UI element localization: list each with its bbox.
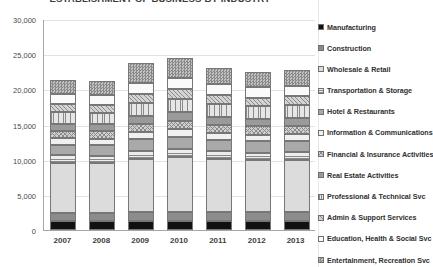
bar-segment[interactable] (89, 81, 115, 95)
bar-segment[interactable] (167, 129, 193, 136)
bar-segment[interactable] (89, 213, 115, 221)
bar-segment[interactable] (50, 112, 76, 123)
bar-segment[interactable] (245, 160, 271, 212)
bar-column-2007[interactable] (50, 80, 76, 230)
bar-segment[interactable] (245, 126, 271, 134)
bar-segment[interactable] (89, 221, 115, 230)
bar-segment[interactable] (167, 112, 193, 120)
bar-segment[interactable] (128, 83, 154, 94)
bar-segment[interactable] (245, 119, 271, 127)
legend-item-wholesale-retail[interactable]: Wholesale & Retail (318, 64, 433, 74)
bar-segment[interactable] (89, 145, 115, 155)
legend-item-professional-technical-svc[interactable]: Professional & Technical Svc (318, 192, 433, 202)
bar-segment[interactable] (206, 104, 232, 117)
bar-segment[interactable] (167, 58, 193, 78)
bar-segment[interactable] (245, 212, 271, 221)
bar-segment[interactable] (206, 95, 232, 104)
bar-segment[interactable] (128, 159, 154, 212)
legend-item-hotel-restaurants[interactable]: Hotel & Restaurants (318, 107, 433, 117)
bar-segment[interactable] (284, 160, 310, 212)
bar-segment[interactable] (206, 125, 232, 133)
bar-segment[interactable] (167, 121, 193, 130)
bar-segment[interactable] (50, 163, 76, 214)
bar-segment[interactable] (89, 124, 115, 131)
bar-segment[interactable] (50, 80, 76, 94)
bar-segment[interactable] (245, 221, 271, 230)
legend-item-financial-insurance-activities[interactable]: Financial & Insurance Activities (318, 149, 433, 159)
bar-segment[interactable] (167, 137, 193, 149)
bar-segment[interactable] (284, 96, 310, 105)
bar-segment[interactable] (50, 131, 76, 139)
bar-segment[interactable] (167, 157, 193, 212)
bar-segment[interactable] (89, 105, 115, 113)
bar-segment[interactable] (128, 116, 154, 124)
bar-segment[interactable] (167, 78, 193, 90)
bar-segment[interactable] (50, 221, 76, 230)
bar-segment[interactable] (50, 145, 76, 156)
bar-segment[interactable] (206, 221, 232, 230)
legend-item-manufacturing[interactable]: Manufacturing (318, 22, 433, 32)
bar-segment[interactable] (245, 153, 271, 161)
bar-segment[interactable] (284, 212, 310, 221)
bar-segment[interactable] (50, 213, 76, 221)
bar-segment[interactable] (284, 118, 310, 126)
bar-segment[interactable] (206, 68, 232, 84)
bar-segment[interactable] (50, 155, 76, 162)
bar-segment[interactable] (50, 94, 76, 104)
bar-segment[interactable] (167, 99, 193, 112)
legend-item-construction[interactable]: Construction (318, 43, 433, 53)
bar-column-2011[interactable] (206, 68, 232, 230)
legend-item-admin-support-services[interactable]: Admin & Support Services (318, 213, 433, 223)
bar-segment[interactable] (206, 133, 232, 140)
legend-item-real-estate-activities[interactable]: Real Estate Activities (318, 170, 433, 180)
bar-segment[interactable] (206, 84, 232, 95)
legend-item-transportation-storage[interactable]: Transportation & Storage (318, 86, 433, 96)
bar-segment[interactable] (167, 149, 193, 157)
bar-segment[interactable] (128, 212, 154, 221)
bar-segment[interactable] (89, 113, 115, 124)
legend-item-information-communications[interactable]: Information & Communications (318, 128, 433, 138)
bar-segment[interactable] (245, 87, 271, 98)
bar-segment[interactable] (128, 221, 154, 230)
bar-segment[interactable] (128, 94, 154, 103)
bar-segment[interactable] (284, 221, 310, 230)
bar-segment[interactable] (128, 151, 154, 159)
bar-segment[interactable] (284, 141, 310, 152)
bar-segment[interactable] (284, 105, 310, 118)
bar-segment[interactable] (284, 70, 310, 86)
bar-segment[interactable] (167, 221, 193, 230)
bar-segment[interactable] (245, 72, 271, 87)
bar-segment[interactable] (50, 104, 76, 112)
bar-segment[interactable] (206, 117, 232, 125)
bar-segment[interactable] (89, 95, 115, 105)
bar-column-2010[interactable] (167, 58, 193, 230)
bar-segment[interactable] (128, 103, 154, 116)
bar-segment[interactable] (50, 124, 76, 131)
bar-segment[interactable] (206, 151, 232, 159)
bar-column-2013[interactable] (284, 70, 310, 230)
bar-segment[interactable] (284, 152, 310, 160)
legend-item-entertainment-recreation-svc[interactable]: Entertainment, Recreation Svc (318, 255, 433, 265)
bar-segment[interactable] (89, 156, 115, 163)
bar-segment[interactable] (89, 163, 115, 213)
bar-segment[interactable] (167, 212, 193, 221)
bar-segment[interactable] (128, 132, 154, 139)
legend-item-education-health-social-svc[interactable]: Education, Health & Social Svc (318, 234, 433, 244)
bar-segment[interactable] (245, 141, 271, 152)
bar-segment[interactable] (89, 131, 115, 139)
bar-column-2012[interactable] (245, 72, 271, 230)
bar-segment[interactable] (128, 63, 154, 83)
bar-segment[interactable] (128, 139, 154, 150)
bar-segment[interactable] (206, 140, 232, 151)
bar-segment[interactable] (284, 86, 310, 97)
bar-segment[interactable] (206, 159, 232, 212)
bar-segment[interactable] (245, 135, 271, 142)
bar-segment[interactable] (128, 124, 154, 132)
bar-segment[interactable] (284, 134, 310, 141)
bar-segment[interactable] (284, 126, 310, 134)
bar-segment[interactable] (167, 89, 193, 99)
bar-column-2009[interactable] (128, 63, 154, 230)
bar-segment[interactable] (206, 212, 232, 221)
bar-column-2008[interactable] (89, 81, 115, 230)
bar-segment[interactable] (245, 98, 271, 107)
